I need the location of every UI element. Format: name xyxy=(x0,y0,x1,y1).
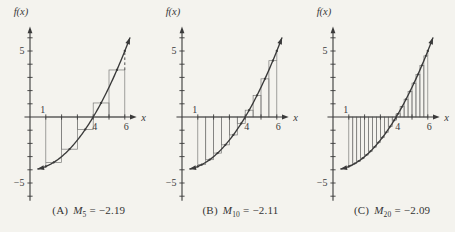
x-axis-label: x xyxy=(292,112,298,123)
midpoint-dot xyxy=(354,163,356,165)
curve-arrowhead-upper xyxy=(429,37,436,45)
midpoint-dot xyxy=(350,165,352,167)
curve-point-dot xyxy=(124,50,126,52)
midpoint-dot xyxy=(401,106,403,108)
riemann-rectangle xyxy=(109,70,125,117)
curve-point-dot xyxy=(275,50,277,52)
midpoint-dot xyxy=(84,128,86,130)
y-tick-label: 5 xyxy=(171,45,176,56)
midpoint-dot xyxy=(68,148,70,150)
riemann-rectangle xyxy=(46,117,62,162)
midpoint-dot xyxy=(405,98,407,100)
midpoint-dot xyxy=(425,55,427,57)
panel-a: 1465−5f(x)x (A)M5= −2.19 xyxy=(0,0,152,232)
x-tick-label: 4 xyxy=(244,121,249,132)
riemann-rectangle xyxy=(253,95,261,117)
midpoint-dot xyxy=(240,122,242,124)
riemann-rectangle xyxy=(62,117,78,149)
panel-a-plot: 1465−5f(x)x xyxy=(0,0,151,203)
midpoint-dot xyxy=(264,78,266,80)
midpoint-dot xyxy=(366,154,368,156)
x-axis-label: x xyxy=(140,112,146,123)
midpoint-dot xyxy=(362,157,364,159)
caption-variable: M xyxy=(73,204,82,216)
midpoint-dot xyxy=(409,90,411,92)
riemann-rectangle xyxy=(416,74,420,117)
curve-point-dot xyxy=(45,165,47,167)
curve-point-dot xyxy=(196,165,198,167)
y-axis-label: f(x) xyxy=(165,6,180,18)
curve-point-dot xyxy=(348,165,350,167)
x-axis-label: x xyxy=(443,112,449,123)
midpoint-dot xyxy=(232,134,234,136)
caption-subscript: 10 xyxy=(232,210,240,219)
riemann-rectangle xyxy=(377,117,381,143)
caption-subscript: 20 xyxy=(384,210,392,219)
panel-c-plot: 1465−5f(x)x xyxy=(303,0,454,203)
midpoint-dot xyxy=(248,109,250,111)
riemann-rectangle xyxy=(381,117,385,138)
curve-arrowhead-upper xyxy=(277,37,284,45)
caption-variable: M xyxy=(374,204,383,216)
midpoint-dot xyxy=(208,159,210,161)
caption-prefix: (A) xyxy=(52,204,68,216)
midpoint-dot xyxy=(398,113,400,115)
panel-b: 1465−5f(x)x (B)M10= −2.11 xyxy=(152,0,304,232)
panel-c-caption: (C)M20= −2.09 xyxy=(303,204,455,219)
midpoint-dot xyxy=(53,161,55,163)
midpoint-dot xyxy=(386,131,388,133)
midpoint-dot xyxy=(100,102,102,104)
riemann-rectangle xyxy=(369,117,373,151)
panel-b-caption: (B)M10= −2.11 xyxy=(152,204,304,219)
riemann-rectangle xyxy=(424,56,428,117)
riemann-rectangle xyxy=(357,117,361,161)
midpoint-dot xyxy=(224,144,226,146)
caption-value: = −2.09 xyxy=(395,204,431,216)
midpoint-dot xyxy=(200,164,202,166)
caption-value: = −2.19 xyxy=(90,204,126,216)
riemann-rectangle xyxy=(373,117,377,147)
panel-c: 1465−5f(x)x (C)M20= −2.09 xyxy=(303,0,455,232)
y-axis-label: f(x) xyxy=(317,6,332,18)
curve-arrowhead-upper xyxy=(125,37,132,45)
riemann-sums-figure: 1465−5f(x)x (A)M5= −2.19 1465−5f(x)x (B)… xyxy=(0,0,455,232)
y-axis-arrowhead xyxy=(179,27,184,34)
midpoint-dot xyxy=(374,146,376,148)
riemann-rectangle xyxy=(353,117,357,164)
y-tick-label: −5 xyxy=(166,177,177,188)
x-tick-label: 6 xyxy=(124,121,129,132)
x-tick-label: 4 xyxy=(92,121,97,132)
midpoint-dot xyxy=(421,64,423,66)
x-axis-arrowhead xyxy=(130,115,137,120)
function-curve xyxy=(341,38,433,169)
caption-prefix: (C) xyxy=(354,204,369,216)
caption-prefix: (B) xyxy=(203,204,218,216)
x-axis-arrowhead xyxy=(433,115,440,120)
midpoint-dot xyxy=(382,137,384,139)
function-curve xyxy=(38,38,130,169)
x-tick-label: 1 xyxy=(344,104,349,115)
midpoint-dot xyxy=(413,82,415,84)
x-tick-label: 4 xyxy=(396,121,401,132)
y-tick-label: 5 xyxy=(20,45,25,56)
midpoint-dot xyxy=(216,152,218,154)
midpoint-dot xyxy=(394,119,396,121)
riemann-rectangle xyxy=(213,117,221,153)
x-tick-label: 1 xyxy=(192,104,197,115)
riemann-rectangle xyxy=(77,117,93,129)
midpoint-dot xyxy=(370,150,372,152)
riemann-rectangle xyxy=(269,61,277,117)
riemann-rectangle xyxy=(205,117,213,160)
panel-b-plot: 1465−5f(x)x xyxy=(152,0,303,203)
curve-point-dot xyxy=(427,50,429,52)
function-curve xyxy=(190,38,282,169)
midpoint-dot xyxy=(417,74,419,76)
caption-variable: M xyxy=(223,204,232,216)
riemann-rectangle xyxy=(349,117,353,166)
caption-value: = −2.11 xyxy=(243,204,278,216)
y-axis-arrowhead xyxy=(331,27,336,34)
midpoint-dot xyxy=(358,160,360,162)
x-axis-arrowhead xyxy=(282,115,289,120)
midpoint-dot xyxy=(116,69,118,71)
riemann-rectangle xyxy=(361,117,365,158)
